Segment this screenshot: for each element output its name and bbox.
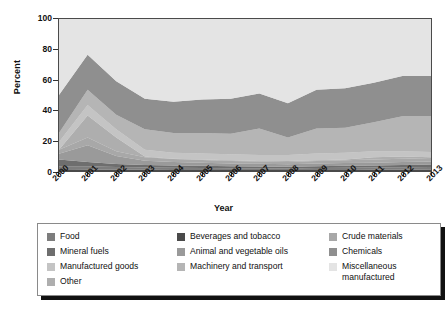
y-axis-tick-labels: 020406080100 [22,12,52,176]
legend-label-other: Other [60,276,82,287]
legend-label-chemicals: Chemicals [342,246,382,257]
stacked-area-chart-figure: Percent 020406080100 2000200120022003200… [0,0,447,315]
y-tick-20: 20 [22,137,52,146]
legend-item-miscellaneous-manufactured[interactable]: Miscellaneous manufactured [329,261,437,282]
y-tick-60: 60 [22,75,52,84]
legend-label-crude-materials: Crude materials [342,231,403,242]
legend-item-machinery-and-transport[interactable]: Machinery and transport [177,261,329,274]
legend-swatch-chemicals [329,248,337,256]
legend-label-food: Food [60,231,80,242]
plot-region: Percent 020406080100 2000200120022003200… [0,0,447,200]
legend-label-beverages-and-tobacco: Beverages and tobacco [190,231,280,242]
legend-item-manufactured-goods[interactable]: Manufactured goods [47,261,177,274]
area-series-svg [59,19,431,171]
legend-swatch-mineral-fuels [47,248,55,256]
legend-column-1: FoodMineral fuelsManufactured goodsOther [47,231,177,291]
legend-swatch-other [47,278,55,286]
x-axis-tick-labels: 2000200120022003200420052006200720082009… [0,176,447,206]
y-tick-0: 0 [22,168,52,177]
legend-item-beverages-and-tobacco[interactable]: Beverages and tobacco [177,231,329,244]
legend-item-crude-materials[interactable]: Crude materials [329,231,437,244]
legend-box: FoodMineral fuelsManufactured goodsOther… [37,223,441,296]
legend-item-mineral-fuels[interactable]: Mineral fuels [47,246,177,259]
y-tick-100: 100 [22,14,52,23]
legend-grid: FoodMineral fuelsManufactured goodsOther… [47,231,437,291]
legend-item-food[interactable]: Food [47,231,177,244]
y-tick-40: 40 [22,106,52,115]
legend-column-2: Beverages and tobaccoAnimal and vegetabl… [177,231,329,276]
y-axis-label: Percent [12,47,22,107]
x-axis-label: Year [0,203,447,213]
legend-swatch-manufactured-goods [47,263,55,271]
plot-area [58,18,432,172]
legend-label-animal-and-vegetable-oils: Animal and vegetable oils [190,246,288,257]
legend-item-chemicals[interactable]: Chemicals [329,246,437,259]
legend-swatch-beverages-and-tobacco [177,233,185,241]
legend-item-animal-and-vegetable-oils[interactable]: Animal and vegetable oils [177,246,329,259]
legend-item-other[interactable]: Other [47,276,177,289]
legend-swatch-food [47,233,55,241]
legend-swatch-animal-and-vegetable-oils [177,248,185,256]
legend-swatch-crude-materials [329,233,337,241]
legend-swatch-miscellaneous-manufactured [329,263,337,271]
y-tick-80: 80 [22,45,52,54]
legend-label-miscellaneous-manufactured: Miscellaneous manufactured [342,261,396,282]
legend-label-machinery-and-transport: Machinery and transport [190,261,283,272]
legend-swatch-machinery-and-transport [177,263,185,271]
legend-label-mineral-fuels: Mineral fuels [60,246,109,257]
legend-label-manufactured-goods: Manufactured goods [60,261,138,272]
legend-column-3: Crude materialsChemicalsMiscellaneous ma… [329,231,437,284]
